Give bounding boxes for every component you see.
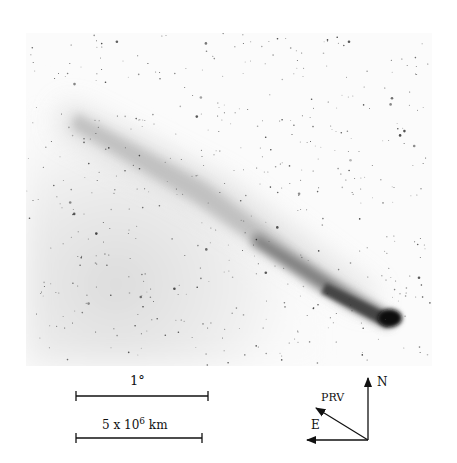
- distance-scale-bar: [76, 433, 202, 443]
- east-label: E: [311, 418, 320, 432]
- prv-label: PRV: [321, 391, 344, 404]
- distance-scale-base: 5 x 10: [102, 418, 139, 432]
- angular-scale-label: 1°: [130, 373, 145, 388]
- annotation-overlay: [0, 0, 457, 463]
- distance-scale-label: 5 x 106 km: [102, 416, 168, 432]
- prv-arrow-icon: [316, 408, 368, 440]
- angular-scale-bar: [76, 391, 208, 401]
- distance-scale-unit: km: [145, 418, 167, 432]
- north-label: N: [377, 375, 388, 389]
